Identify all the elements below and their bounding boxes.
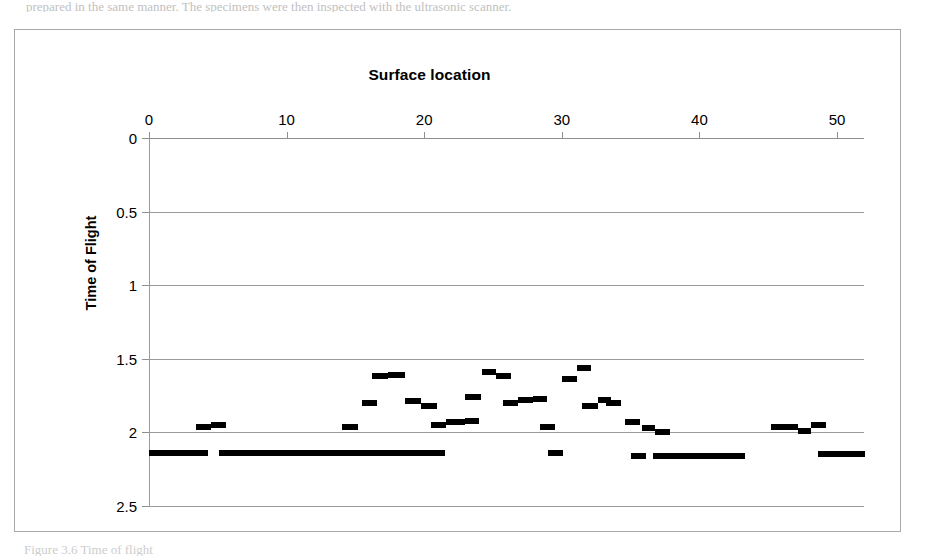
x-tick-50	[837, 132, 838, 138]
data-marker	[503, 400, 518, 406]
y-tick-label-0: 0	[129, 130, 137, 147]
chart-frame: Surface location Time of Flight 00.511.5…	[14, 29, 901, 532]
gridline-y-2	[149, 432, 864, 433]
data-marker	[577, 365, 591, 371]
x-tick-label-50: 50	[829, 111, 846, 128]
data-marker	[211, 422, 226, 428]
data-marker	[771, 424, 799, 430]
y-tick-0.5	[142, 212, 149, 213]
y-tick-1	[142, 285, 149, 286]
y-tick-label-2: 2	[129, 424, 137, 441]
data-marker	[421, 403, 436, 409]
data-marker	[631, 453, 646, 459]
gridline-y-1.5	[149, 359, 864, 360]
gridline-y-2.5	[149, 506, 864, 507]
data-marker	[548, 450, 563, 456]
y-axis-title: Time of Flight	[83, 183, 99, 343]
gridline-y-0.5	[149, 212, 864, 213]
data-marker	[655, 429, 670, 435]
chart-title: Surface location	[0, 66, 873, 84]
data-marker	[518, 397, 533, 403]
data-marker	[446, 419, 465, 425]
data-marker	[818, 451, 865, 457]
data-marker	[431, 422, 446, 428]
x-tick-20	[424, 132, 425, 138]
data-marker	[372, 373, 389, 379]
y-tick-label-2.5: 2.5	[116, 498, 137, 515]
data-marker	[642, 425, 656, 431]
data-marker	[582, 403, 597, 409]
data-marker	[798, 428, 810, 434]
y-tick-1.5	[142, 359, 149, 360]
data-marker	[533, 396, 547, 402]
data-marker	[496, 373, 511, 379]
data-marker	[219, 450, 445, 456]
y-tick-label-1.5: 1.5	[116, 350, 137, 367]
data-marker	[606, 400, 621, 406]
y-tick-2.5	[142, 506, 149, 507]
plot-area: 00.511.522.5 01020304050	[149, 138, 864, 506]
page-text-sliver-bottom: Figure 3.6 Time of flight	[24, 543, 424, 556]
data-marker	[465, 418, 479, 424]
x-tick-label-30: 30	[553, 111, 570, 128]
x-tick-10	[287, 132, 288, 138]
y-tick-2	[142, 432, 149, 433]
page-text-sliver-top: prepared in the same manner. The specime…	[26, 0, 806, 12]
data-marker	[562, 376, 577, 382]
data-marker	[465, 394, 480, 400]
data-marker	[653, 453, 745, 459]
x-tick-label-40: 40	[691, 111, 708, 128]
data-marker	[388, 372, 405, 378]
data-marker	[405, 398, 422, 404]
x-tick-40	[699, 132, 700, 138]
gridline-y-1	[149, 285, 864, 286]
x-tick-label-0: 0	[145, 111, 153, 128]
y-tick-0	[142, 138, 149, 139]
data-marker	[625, 419, 640, 425]
gridline-y-0	[149, 138, 864, 139]
data-marker	[196, 424, 211, 430]
x-tick-label-20: 20	[416, 111, 433, 128]
data-marker	[342, 424, 359, 430]
x-tick-0	[149, 132, 150, 138]
data-marker	[482, 369, 496, 375]
data-marker	[362, 400, 377, 406]
data-marker	[540, 424, 555, 430]
x-tick-30	[562, 132, 563, 138]
x-tick-label-10: 10	[278, 111, 295, 128]
data-marker	[149, 450, 208, 456]
y-tick-label-0.5: 0.5	[116, 203, 137, 220]
y-tick-label-1: 1	[129, 277, 137, 294]
data-marker	[811, 422, 826, 428]
